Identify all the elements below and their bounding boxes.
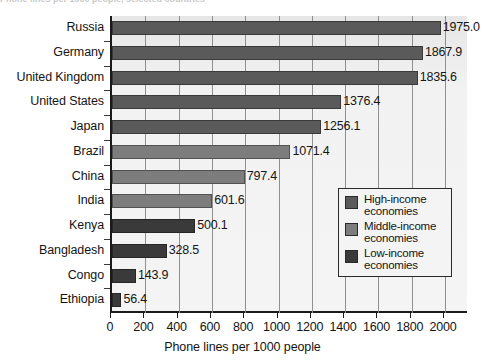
bar-value-label: 797.4 [247,169,277,183]
bar-row [112,140,469,165]
legend-label-line2: economies [364,260,424,272]
bar-united-kingdom [112,71,418,85]
category-tick [104,264,110,265]
bar-value-label: 1376.4 [343,94,380,108]
legend-label: High-incomeeconomies [364,194,426,217]
legend-item: Middle-incomeeconomies [345,221,446,244]
bar-value-label: 601.6 [214,193,244,207]
bar-value-label: 1975.0 [443,20,480,34]
bar-china [112,170,245,184]
bar-ethiopia [112,293,121,307]
category-tick [104,115,110,116]
category-label-russia: Russia [66,20,104,34]
bar-row [112,115,469,140]
legend-label-line1: Middle-income [364,221,436,233]
bar-brazil [112,145,290,159]
category-tick [104,165,110,166]
x-tick-200 [143,313,144,318]
legend-label-line1: Low-income [364,248,424,260]
bar-value-label: 143.9 [138,268,168,282]
bar-row [112,165,469,190]
bar-kenya [112,219,195,233]
bar-congo [112,269,136,283]
bar-value-label: 500.1 [197,218,227,232]
legend-item: High-incomeeconomies [345,194,446,217]
bar-value-label: 328.5 [169,243,199,257]
x-tick-label-2000: 2000 [418,320,468,334]
legend-label-line2: economies [364,233,436,245]
bar-bangladesh [112,244,167,258]
x-tick-1400 [343,313,344,318]
category-tick [104,66,110,67]
bar-value-label: 56.4 [123,292,147,306]
legend-label-line2: economies [364,206,426,218]
category-tick [104,239,110,240]
legend-label-line1: High-income [364,194,426,206]
bar-value-label: 1256.1 [323,119,360,133]
bar-row [112,41,469,66]
category-label-kenya: Kenya [69,218,104,232]
category-label-congo: Congo [68,268,104,282]
legend-label: Low-incomeeconomies [364,248,424,271]
x-tick-1200 [310,313,311,318]
x-tick-600 [210,313,211,318]
bar-row [112,288,469,313]
bar-row [112,90,469,115]
bar-row [112,16,469,41]
bar-value-label: 1867.9 [425,45,462,59]
bar-india [112,194,212,208]
bar-united-states [112,95,341,109]
category-tick [104,90,110,91]
x-tick-1000 [277,313,278,318]
category-label-china: China [72,169,104,183]
x-tick-2000 [443,313,444,318]
legend-item: Low-incomeeconomies [345,248,446,271]
x-tick-1800 [410,313,411,318]
category-tick [104,214,110,215]
legend-swatch [345,196,358,209]
bar-value-label: 1835.6 [420,70,457,84]
category-label-ethiopia: Ethiopia [60,292,104,306]
bar-chart-figure: RussiaGermanyUnited KingdomUnited States… [0,0,485,364]
x-tick-400 [177,313,178,318]
category-label-bangladesh: Bangladesh [39,243,104,257]
x-tick-1600 [376,313,377,318]
category-tick [104,288,110,289]
bar-row [112,66,469,91]
x-tick-800 [243,313,244,318]
category-label-japan: Japan [70,119,104,133]
legend-swatch [345,223,358,236]
bar-japan [112,120,321,134]
category-label-brazil: Brazil [73,144,104,158]
bar-russia [112,21,441,35]
x-axis-title: Phone lines per 1000 people [0,340,485,354]
bar-germany [112,46,423,60]
category-label-india: India [77,193,104,207]
category-tick [104,140,110,141]
category-label-united-states: United States [30,94,104,108]
legend: High-incomeeconomiesMiddle-incomeeconomi… [338,188,452,277]
x-tick-0 [110,313,111,318]
legend-label: Middle-incomeeconomies [364,221,436,244]
category-tick [104,41,110,42]
legend-swatch [345,250,358,263]
category-label-germany: Germany [53,45,104,59]
bar-value-label: 1071.4 [292,144,329,158]
category-label-united-kingdom: United Kingdom [16,70,104,84]
category-tick [104,189,110,190]
